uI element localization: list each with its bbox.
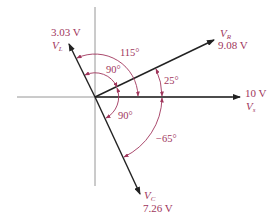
vr-magnitude-label: 9.08 V [218,40,248,51]
vc-symbol: V [144,189,151,201]
vl-symbol-label: VL [52,40,63,55]
angle-label-90-upper: 90° [106,64,121,75]
vr-symbol: V [220,27,227,39]
vl-subscript: L [59,45,63,53]
phasor-diagram-graphics [0,0,277,223]
angle-label-90-lower: 90° [118,110,133,121]
vl-magnitude-label: 3.03 V [51,27,81,38]
arc-25-icon [156,69,162,96]
vs-symbol: V [246,100,253,112]
angle-label-115: 115° [120,47,140,58]
vc-magnitude-label: 7.26 V [143,203,173,214]
phasor-diagram: 3.03 V VL VR 9.08 V 10 V Vs VC 7.26 V 11… [0,0,277,223]
phasor-vl-arrow [69,44,95,97]
arc-90-lower-icon [106,88,119,118]
angle-label-25: 25° [164,75,179,86]
angle-label-neg65: −65° [156,133,177,144]
vs-magnitude-label: 10 V [245,88,267,99]
arc-115-icon [77,54,138,96]
vl-symbol: V [52,39,59,51]
vs-subscript: s [253,106,256,114]
arc-neg65-icon [124,98,162,157]
vs-symbol-label: Vs [246,101,255,116]
